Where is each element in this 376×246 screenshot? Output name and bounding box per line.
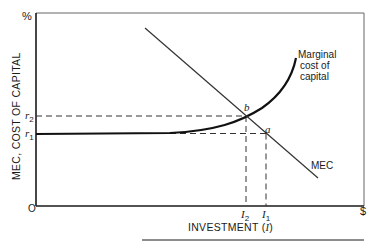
point-b-label: b: [244, 101, 250, 113]
point-a-label: a: [265, 123, 271, 135]
r1-tick-label: r1: [25, 127, 34, 142]
r2-tick-label: r2: [25, 109, 34, 124]
mec-line: [145, 28, 318, 178]
mcc-label-line2: cost of: [300, 60, 330, 71]
y-axis-title: MEC, COST OF CAPITAL: [10, 52, 22, 180]
marginal-cost-of-capital-curve: [36, 58, 296, 134]
x-axis-title-close: ): [269, 221, 273, 233]
mcc-label-line1: Marginal: [298, 49, 336, 60]
x-axis-title: INVESTMENT (I): [188, 221, 273, 233]
x-axis-title-main: INVESTMENT (: [188, 221, 266, 233]
r1-sub: 1: [29, 133, 34, 142]
mcc-label-line3: capital: [300, 71, 329, 82]
r2-sub: 2: [29, 115, 34, 124]
x-unit-label: $: [360, 205, 366, 217]
origin-label: O: [28, 203, 36, 214]
mec-label: MEC: [311, 160, 333, 171]
mec-cost-of-capital-diagram: % $ O MEC, COST OF CAPITAL r2 r1 I2 I1 I…: [0, 0, 376, 246]
y-unit-label: %: [22, 10, 32, 22]
